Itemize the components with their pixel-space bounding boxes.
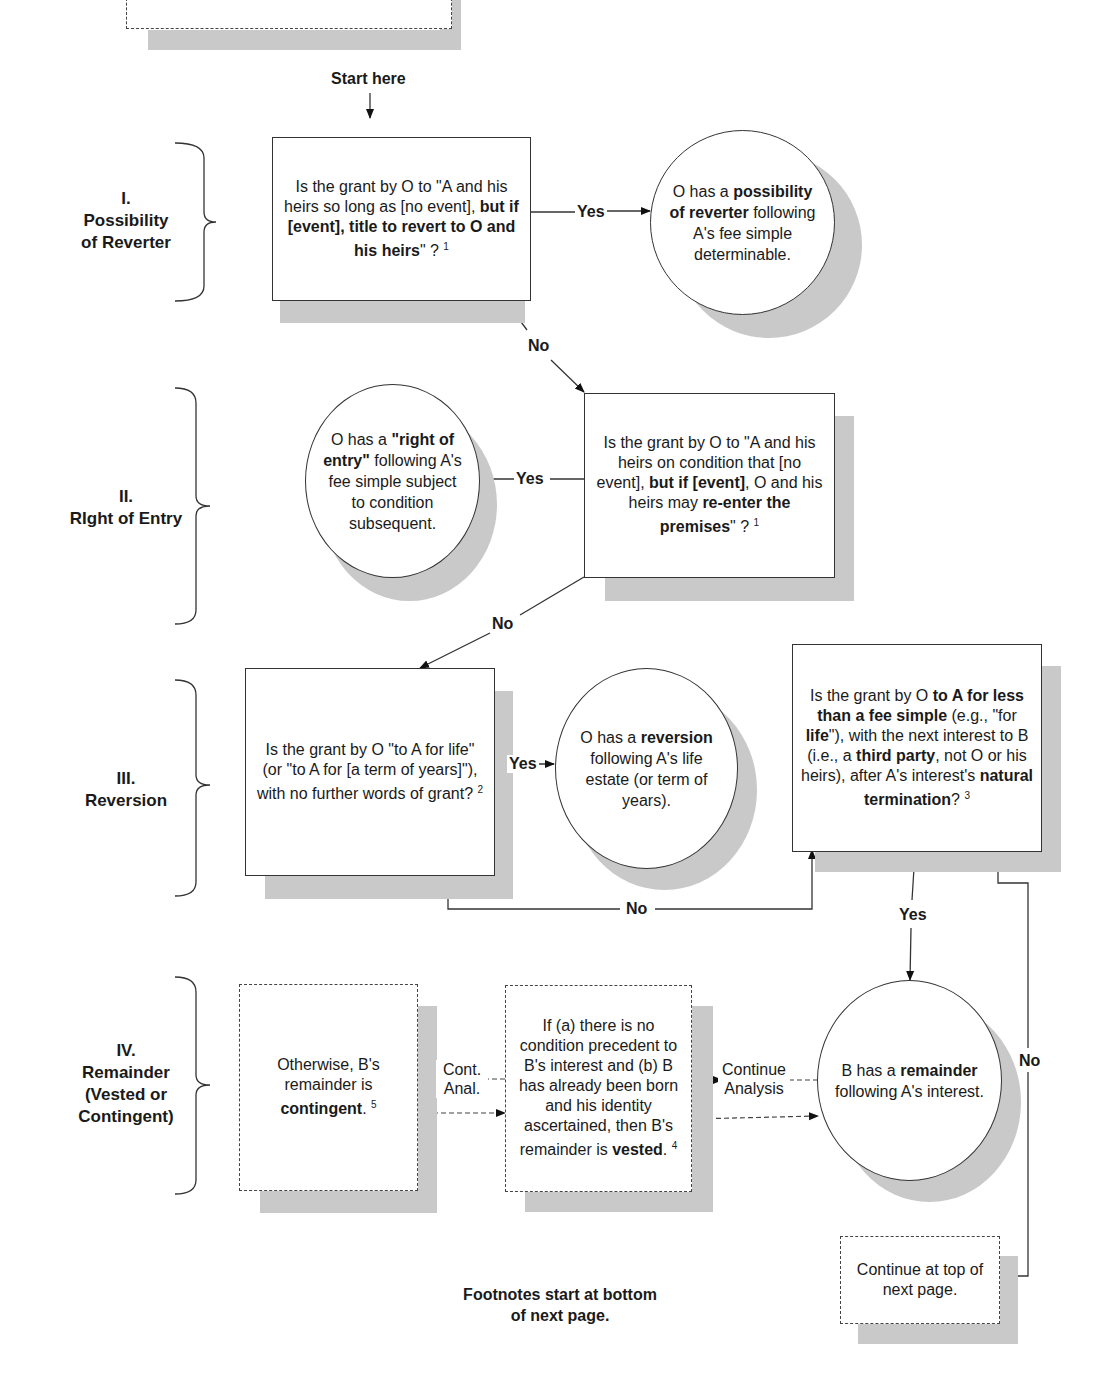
text: Otherwise, B's remainder is <box>277 1056 380 1093</box>
text: following A's interest. <box>835 1083 984 1100</box>
label-line: Continue <box>718 1060 790 1079</box>
footnote-ref: 1 <box>754 517 760 528</box>
text: Is the grant by O <box>810 687 933 704</box>
question-reversion: Is the grant by O "to A for life" (or "t… <box>245 668 495 876</box>
bold-text: vested <box>612 1142 663 1159</box>
result-reversion: O has a reversion following A's life est… <box>555 668 738 869</box>
footnotes-note: Footnotes start at bottom of next page. <box>440 1284 680 1326</box>
start-here-label: Start here <box>329 70 408 88</box>
section-title-line: Reversion <box>56 790 196 812</box>
edge-label-yes: Yes <box>507 755 539 773</box>
section-numeral: III. <box>56 768 196 790</box>
bold-text: reversion <box>641 729 713 746</box>
section-title-line: Contingent) <box>56 1106 196 1128</box>
note-line: Footnotes start at bottom <box>440 1284 680 1305</box>
question-possibility-of-reverter: Is the grant by O to "A and his heirs so… <box>272 137 531 301</box>
section-title-line: Possibility <box>56 210 196 232</box>
text: " ? <box>420 242 443 259</box>
section-label-possibility-of-reverter: I. Possibility of Reverter <box>56 188 196 254</box>
text: O has a <box>673 183 733 200</box>
section-numeral: I. <box>56 188 196 210</box>
label-line: Analysis <box>718 1079 790 1098</box>
label-line: Cont. <box>436 1060 488 1079</box>
footnote-ref: 5 <box>371 1099 377 1110</box>
edge-label-yes: Yes <box>514 470 546 488</box>
section-label-remainder: IV. Remainder (Vested or Contingent) <box>56 1040 196 1128</box>
vested-remainder-box: If (a) there is no condition precedent t… <box>505 985 692 1192</box>
section-title-line: (Vested or <box>56 1084 196 1106</box>
edge-label-no: No <box>1017 1052 1042 1070</box>
bold-text: but if [event] <box>649 474 745 491</box>
text: O has a <box>331 431 391 448</box>
note-line: of next page. <box>440 1305 680 1326</box>
edge-label-no: No <box>526 337 551 355</box>
text: (e.g., "for <box>947 707 1017 724</box>
text: B has a <box>841 1062 900 1079</box>
question-remainder: Is the grant by O to A for less than a f… <box>792 644 1042 852</box>
section-label-right-of-entry: II. RIght of Entry <box>56 486 196 530</box>
section-numeral: II. <box>56 486 196 508</box>
bold-text: third party <box>856 747 935 764</box>
text: ? <box>951 791 964 808</box>
footnote-ref: 2 <box>478 784 484 795</box>
text: . <box>362 1101 371 1118</box>
edge-label-yes: Yes <box>897 906 929 924</box>
text: O has a <box>580 729 640 746</box>
bold-text: contingent <box>280 1101 362 1118</box>
section-title-line: Remainder <box>56 1062 196 1084</box>
section-title-line: RIght of Entry <box>56 508 196 530</box>
text: following A's life estate (or term of ye… <box>586 750 708 809</box>
result-right-of-entry: O has a "right of entry" following A's f… <box>305 384 480 578</box>
bold-text: life <box>806 727 829 744</box>
edge-label-yes: Yes <box>575 203 607 221</box>
text: . <box>663 1142 672 1159</box>
bold-text: remainder <box>900 1062 977 1079</box>
section-label-reversion: III. Reversion <box>56 768 196 812</box>
continue-analysis-label: Continue Analysis <box>718 1060 790 1098</box>
footnote-ref: 1 <box>443 241 449 252</box>
section-title-line: of Reverter <box>56 232 196 254</box>
question-right-of-entry: Is the grant by O to "A and his heirs on… <box>584 393 835 578</box>
edge-label-no: No <box>490 615 515 633</box>
continue-next-page-box: Continue at top of next page. <box>840 1236 1000 1324</box>
result-remainder: B has a remainder following A's interest… <box>817 980 1002 1181</box>
footnote-ref: 3 <box>964 790 970 801</box>
footnote-ref: 4 <box>672 1140 678 1151</box>
section-numeral: IV. <box>56 1040 196 1062</box>
text: Continue at top of next page. <box>851 1260 989 1300</box>
text: Is the grant by O to "A and his heirs so… <box>284 178 507 215</box>
edge-label-no: No <box>624 900 649 918</box>
label-line: Anal. <box>436 1079 488 1098</box>
contingent-remainder-box: Otherwise, B's remainder is contingent. … <box>239 984 418 1191</box>
text: Is the grant by O "to A for life" (or "t… <box>257 741 478 802</box>
text: If (a) there is no condition precedent t… <box>519 1017 678 1158</box>
cont-anal-label: Cont. Anal. <box>436 1060 488 1098</box>
result-possibility-of-reverter: O has a possibility of reverter followin… <box>650 130 835 315</box>
text: " ? <box>730 519 753 536</box>
